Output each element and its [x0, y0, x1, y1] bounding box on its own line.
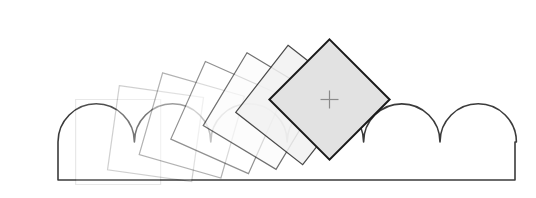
diagram-canvas: Rolling square on a scalloped (bumpy) su…	[0, 0, 536, 198]
rolling-square-diagram: Rolling square on a scalloped (bumpy) su…	[0, 0, 536, 198]
